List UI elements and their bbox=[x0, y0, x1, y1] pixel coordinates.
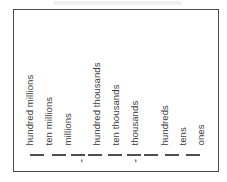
blank-ten-millions[interactable] bbox=[52, 154, 66, 156]
place-label-millions: millions bbox=[63, 113, 73, 145]
place-label-ones: ones bbox=[196, 124, 206, 145]
blank-hundreds[interactable] bbox=[144, 154, 158, 156]
place-label-ten-millions: ten millions bbox=[44, 96, 54, 145]
comma-separator-millions: , bbox=[80, 151, 83, 163]
worksheet-page: hundred millions ten millions millions h… bbox=[0, 0, 227, 182]
comma-separator-thousands: , bbox=[134, 151, 137, 163]
scan-artifact bbox=[54, 1, 182, 5]
place-value-chart-box: hundred millions ten millions millions h… bbox=[13, 9, 219, 172]
blank-hundred-thousands[interactable] bbox=[88, 154, 102, 156]
place-label-thousands: thousands bbox=[130, 100, 140, 145]
place-label-hundred-millions: hundred millions bbox=[25, 74, 35, 145]
place-label-hundred-thousands: hundred thousands bbox=[92, 62, 102, 145]
blank-ones[interactable] bbox=[186, 154, 200, 156]
blank-hundred-millions[interactable] bbox=[30, 154, 44, 156]
blank-ten-thousands[interactable] bbox=[108, 154, 122, 156]
place-label-tens: tens bbox=[178, 127, 188, 145]
place-label-hundreds: hundreds bbox=[160, 105, 170, 145]
answer-blanks-row: , , bbox=[14, 147, 220, 161]
blank-tens[interactable] bbox=[165, 154, 179, 156]
place-label-ten-thousands: ten thousands bbox=[111, 84, 121, 145]
